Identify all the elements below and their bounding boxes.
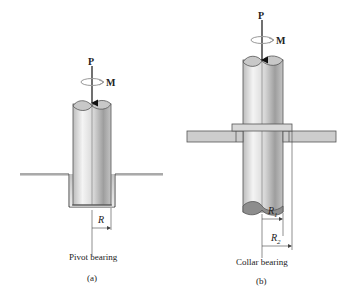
outer-radius-label: R2 bbox=[271, 232, 281, 246]
moment-label-b: M bbox=[276, 35, 285, 46]
diagram-graphics bbox=[0, 0, 353, 298]
force-label-b: P bbox=[258, 10, 264, 21]
pivot-bearing-drawing bbox=[20, 66, 163, 256]
radius-label-a: R bbox=[98, 214, 104, 225]
caption-b: Collar bearing bbox=[236, 257, 288, 267]
inner-radius-label: R1 bbox=[268, 205, 278, 219]
tag-a: (a) bbox=[87, 273, 97, 283]
bearing-figure: P M R Pivot bearing (a) P M R1 R2 Collar… bbox=[0, 0, 353, 298]
force-label-a: P bbox=[88, 56, 94, 67]
caption-a: Pivot bearing bbox=[69, 252, 117, 262]
collar-bearing-drawing bbox=[187, 20, 336, 258]
moment-label-a: M bbox=[106, 77, 115, 88]
tag-b: (b) bbox=[256, 276, 267, 286]
